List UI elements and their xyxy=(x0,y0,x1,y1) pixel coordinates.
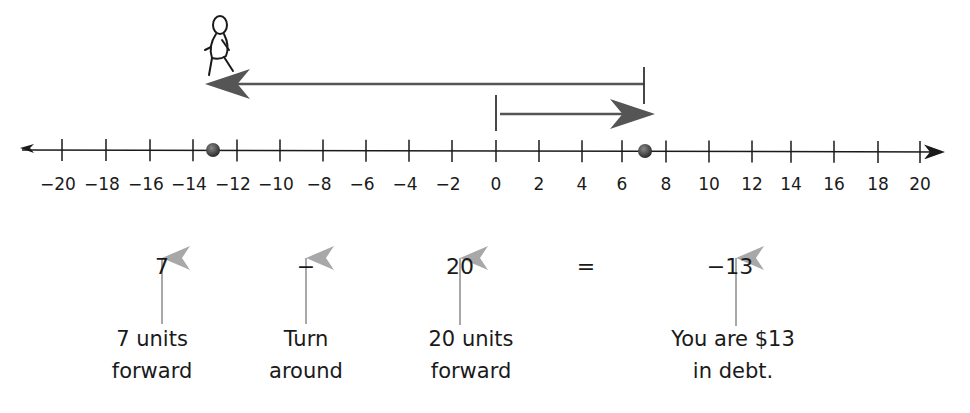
equation-term1: 7 xyxy=(155,254,169,279)
caption-operator: Turn around xyxy=(269,323,343,387)
tick-label: 14 xyxy=(780,174,802,194)
tick-label: −4 xyxy=(392,174,417,194)
person-walking-icon xyxy=(205,16,233,75)
tick-label: −2 xyxy=(435,174,460,194)
tick-labels: −20−18−16−14−12−10−8−6−4−202468101214161… xyxy=(40,174,931,194)
tick-label: −6 xyxy=(349,174,374,194)
caption-term1: 7 units forward xyxy=(112,323,193,387)
caption-line: forward xyxy=(112,355,193,387)
number-line-axis xyxy=(22,150,942,152)
point-7 xyxy=(638,144,652,158)
tick-label: −10 xyxy=(258,174,294,194)
point-negative-13 xyxy=(206,143,220,157)
tick-label: −12 xyxy=(215,174,251,194)
caption-line: forward xyxy=(428,355,513,387)
caption-line: 20 units xyxy=(428,323,513,355)
tick-label: 6 xyxy=(617,174,628,194)
tick-label: 8 xyxy=(661,174,672,194)
tick-label: −18 xyxy=(84,174,120,194)
axis-left-arrow-icon xyxy=(20,144,34,153)
caption-line: around xyxy=(269,355,343,387)
tick-label: 12 xyxy=(741,174,763,194)
caption-line: Turn xyxy=(269,323,343,355)
tick-label: 2 xyxy=(534,174,545,194)
equation-operator: − xyxy=(297,254,315,279)
caption-line: You are $13 xyxy=(671,323,795,355)
tick-label: 0 xyxy=(491,174,502,194)
equation-result: −13 xyxy=(707,254,753,279)
tick-label: 16 xyxy=(823,174,845,194)
tick-label: −20 xyxy=(40,174,76,194)
tick-label: −8 xyxy=(306,174,331,194)
caption-result: You are $13 in debt. xyxy=(671,323,795,387)
tick-label: 10 xyxy=(698,174,720,194)
tick-label: 18 xyxy=(867,174,889,194)
tick-label: 20 xyxy=(909,174,931,194)
caption-term2: 20 units forward xyxy=(428,323,513,387)
caption-line: in debt. xyxy=(671,355,795,387)
tick-label: −16 xyxy=(128,174,164,194)
tick-label: −14 xyxy=(171,174,207,194)
caption-line: 7 units xyxy=(112,323,193,355)
tick-label: 4 xyxy=(577,174,588,194)
equation-term2: 20 xyxy=(446,254,474,279)
equation-equals: = xyxy=(577,254,595,279)
